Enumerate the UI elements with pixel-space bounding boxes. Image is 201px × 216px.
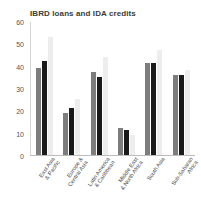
bar-group: [63, 22, 81, 155]
y-axis-tick: 20: [16, 108, 24, 115]
bar[interactable]: [157, 50, 162, 155]
bar-group: [145, 22, 163, 155]
x-axis-label: South Asia: [146, 156, 167, 182]
bar[interactable]: [185, 70, 190, 155]
bar[interactable]: [151, 63, 156, 155]
bar[interactable]: [63, 113, 68, 155]
y-axis-tick: 40: [16, 63, 24, 70]
y-axis-tick: 60: [16, 19, 24, 26]
bar[interactable]: [118, 128, 123, 155]
bar[interactable]: [42, 61, 47, 155]
bar[interactable]: [97, 77, 102, 155]
x-axis-label: Middle East& North Africa: [114, 156, 144, 192]
bar[interactable]: [173, 75, 178, 155]
x-axis-label-line: South Asia: [146, 156, 167, 182]
y-axis-tick: 30: [16, 86, 24, 93]
bar-group: [172, 22, 190, 155]
bar[interactable]: [91, 72, 96, 155]
bar[interactable]: [69, 108, 74, 155]
x-axis-label: Latin America& Caribbean: [87, 156, 117, 191]
y-axis-tick: 0: [20, 153, 24, 160]
x-axis-label: Sub-SaharanAfrica: [170, 156, 199, 190]
bar-group: [36, 22, 54, 155]
bar-group: [118, 22, 136, 155]
bar[interactable]: [145, 63, 150, 155]
bar[interactable]: [36, 68, 41, 155]
y-axis-tick: 50: [16, 41, 24, 48]
bar-group: [90, 22, 108, 155]
bar[interactable]: [103, 57, 108, 155]
plot-area: [30, 22, 195, 156]
chart-title: IBRD loans and IDA credits: [30, 9, 136, 18]
chart-container: IBRD loans and IDA credits 0102030405060…: [0, 0, 201, 216]
y-axis: 0102030405060: [0, 22, 28, 156]
x-axis-labels: East Asia& PacificEurope &Central AsiaLa…: [30, 156, 195, 216]
bar[interactable]: [48, 37, 53, 155]
bar[interactable]: [179, 75, 184, 155]
bar[interactable]: [124, 130, 129, 155]
bar-groups: [31, 22, 195, 155]
bar[interactable]: [75, 99, 80, 155]
bar[interactable]: [130, 135, 135, 155]
x-axis-label: East Asia& Pacific: [38, 156, 62, 182]
y-axis-tick: 10: [16, 130, 24, 137]
